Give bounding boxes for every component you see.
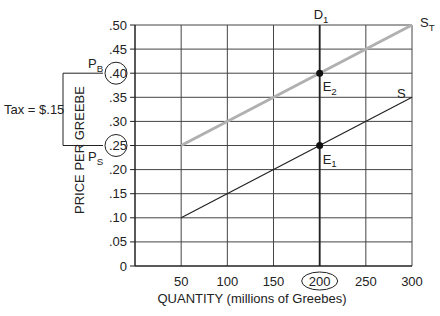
x-tick-label: 150 xyxy=(263,274,285,289)
x-tick-label: 200 xyxy=(309,274,331,289)
x-tick-label: 300 xyxy=(401,274,423,289)
x-axis-title: QUANTITY (millions of Greebes) xyxy=(157,291,346,306)
y-tick-label: .30 xyxy=(109,114,127,129)
y-tick-label: .10 xyxy=(109,210,127,225)
y-tick-label: .50 xyxy=(109,18,127,33)
point-e1 xyxy=(316,142,323,149)
y-tick-label: .40 xyxy=(109,66,127,81)
y-axis-title: PRICE PER GREEBE xyxy=(72,86,87,214)
y-tick-label: .05 xyxy=(109,234,127,249)
y-tick-label: .35 xyxy=(109,90,127,105)
point-e2 xyxy=(316,70,323,77)
y-tick-label: .25 xyxy=(109,138,127,153)
x-tick-label: 250 xyxy=(355,274,377,289)
curve-s xyxy=(181,97,412,218)
label-e1: E1 xyxy=(323,152,337,170)
label-pb: PB xyxy=(88,56,103,74)
supply-demand-tax-chart: 0.05.10.15.20.25.30.35.40.45.50501001502… xyxy=(0,0,440,316)
curve-s-t xyxy=(181,25,412,146)
grid-lines xyxy=(135,25,412,266)
label-st: ST xyxy=(420,15,435,33)
x-tick-label: 100 xyxy=(216,274,238,289)
tax-label: Tax = $.15 xyxy=(4,102,64,117)
y-tick-label: .45 xyxy=(109,42,127,57)
x-tick-label: 50 xyxy=(174,274,188,289)
label-s: S xyxy=(397,86,406,101)
y-tick-label: .15 xyxy=(109,186,127,201)
labels: 0.05.10.15.20.25.30.35.40.45.50501001502… xyxy=(4,7,435,306)
label-d1: D1 xyxy=(314,7,329,25)
y-tick-label: .20 xyxy=(109,162,127,177)
label-ps: PS xyxy=(88,149,104,167)
label-e2: E2 xyxy=(323,79,337,97)
y-tick-label: 0 xyxy=(120,259,127,274)
